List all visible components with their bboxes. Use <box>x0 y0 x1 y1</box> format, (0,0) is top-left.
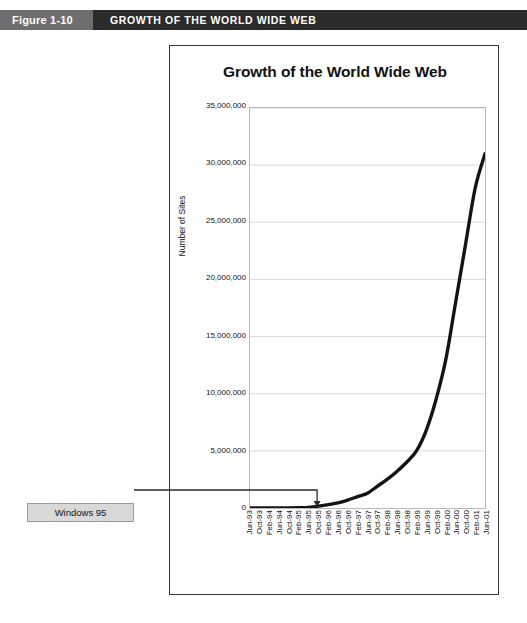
y-tick: 25,000,000 <box>178 216 246 228</box>
x-tick-label: Oct-00 <box>462 510 471 534</box>
chart-title: Growth of the World Wide Web <box>170 63 500 81</box>
x-tick-label: Jun-99 <box>422 510 431 534</box>
x-tick-label: Feb-98 <box>383 510 392 535</box>
x-tick-label: Jun-01 <box>482 510 491 534</box>
x-tick-label: Jun-97 <box>363 510 372 534</box>
data-series-line <box>250 154 485 508</box>
y-tick-label: 5,000,000 <box>180 446 246 455</box>
x-tick: Jun-01 <box>481 510 492 586</box>
y-tick: 30,000,000 <box>178 158 246 170</box>
x-tick-label: Feb-96 <box>324 510 333 535</box>
x-tick-label: Oct-95 <box>314 510 323 534</box>
y-tick: 10,000,000 <box>178 388 246 400</box>
y-tick-label: 35,000,000 <box>180 101 246 110</box>
x-tick-label: Feb-00 <box>442 510 451 535</box>
y-tick-label: 25,000,000 <box>180 216 246 225</box>
x-tick-label: Oct-99 <box>432 510 441 534</box>
y-tick: 0 <box>178 503 246 515</box>
y-tick: 35,000,000 <box>178 101 246 113</box>
x-tick-label: Jun-95 <box>304 510 313 534</box>
x-tick-label: Oct-96 <box>343 510 352 534</box>
x-tick-label: Feb-01 <box>472 510 481 535</box>
x-tick-label: Oct-94 <box>284 510 293 534</box>
y-tick: 5,000,000 <box>178 446 246 458</box>
chart-line-svg <box>250 108 485 508</box>
x-tick-label: Jun-93 <box>245 510 254 534</box>
x-tick-label: Oct-97 <box>373 510 382 534</box>
x-tick-label: Jun-96 <box>333 510 342 534</box>
x-tick-label: Feb-94 <box>264 510 273 535</box>
y-axis-tick-labels: 05,000,00010,000,00015,000,00020,000,000… <box>178 107 246 509</box>
y-tick-label: 20,000,000 <box>180 273 246 282</box>
y-tick-label: 30,000,000 <box>180 158 246 167</box>
x-tick-label: Jun-00 <box>452 510 461 534</box>
figure-header-bar: Figure 1-10 GROWTH OF THE WORLD WIDE WEB <box>0 10 527 30</box>
x-tick-label: Oct-98 <box>403 510 412 534</box>
chart-container: Growth of the World Wide Web Number of S… <box>169 45 499 595</box>
x-axis-tick-labels: Jun-93Oct-93Feb-94Jun-94Oct-94Feb-95Jun-… <box>249 510 486 590</box>
y-tick-label: 0 <box>180 503 246 512</box>
x-tick-label: Feb-97 <box>353 510 362 535</box>
y-tick: 15,000,000 <box>178 331 246 343</box>
figure-caption: GROWTH OF THE WORLD WIDE WEB <box>93 10 527 30</box>
x-tick-label: Jun-94 <box>274 510 283 534</box>
x-tick-label: Oct-93 <box>254 510 263 534</box>
plot-area <box>249 107 486 509</box>
y-tick-label: 15,000,000 <box>180 331 246 340</box>
callout-windows-95[interactable]: Windows 95 <box>27 503 134 522</box>
figure-number: Figure 1-10 <box>0 10 93 30</box>
x-tick-label: Feb-99 <box>412 510 421 535</box>
y-tick: 20,000,000 <box>178 273 246 285</box>
x-tick-label: Feb-95 <box>294 510 303 535</box>
x-tick-label: Jun-98 <box>393 510 402 534</box>
gridlines <box>250 108 485 451</box>
y-tick-label: 10,000,000 <box>180 388 246 397</box>
